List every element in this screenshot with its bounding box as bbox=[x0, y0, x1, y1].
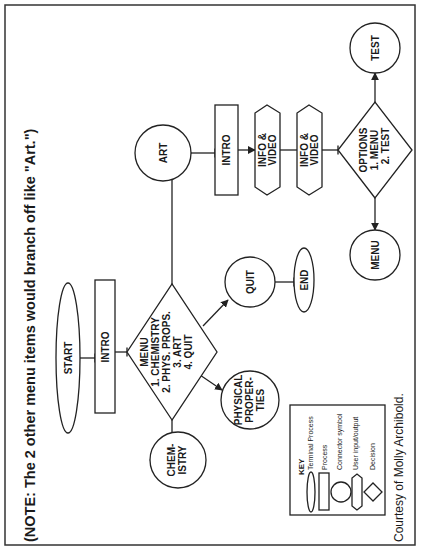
svg-text:ART: ART bbox=[158, 143, 169, 164]
svg-text:Terminal Process: Terminal Process bbox=[307, 416, 314, 470]
svg-text:Connector symbol: Connector symbol bbox=[336, 413, 344, 470]
svg-text:Decision: Decision bbox=[369, 443, 376, 470]
flowchart-diagram: (NOTE: The 2 other menu items would bran… bbox=[0, 0, 421, 558]
svg-text:TIES: TIES bbox=[255, 389, 266, 412]
menu-decision: MENU 1. CHEMISTRY 2. PHYS. PROPS. 3. ART… bbox=[127, 284, 217, 420]
legend-key: KEY Terminal Process Process Connector s… bbox=[290, 405, 385, 515]
svg-text:KEY: KEY bbox=[297, 458, 306, 475]
chemistry-connector: CHEM- ISTRY bbox=[150, 432, 206, 488]
svg-text:PROPER-: PROPER- bbox=[244, 377, 255, 423]
legend-circle-icon bbox=[331, 482, 351, 502]
quit-connector: QUIT bbox=[225, 257, 275, 307]
svg-text:Process: Process bbox=[321, 444, 328, 470]
end-terminal: END bbox=[294, 248, 314, 312]
svg-text:VIDEO: VIDEO bbox=[267, 134, 278, 165]
svg-text:CHEM-: CHEM- bbox=[166, 444, 177, 477]
svg-text:TEST: TEST bbox=[370, 35, 381, 61]
physical-properties-connector: PHYSICAL PROPER- TIES bbox=[221, 371, 279, 429]
svg-text:MENU: MENU bbox=[139, 337, 150, 366]
svg-text:INTRO: INTRO bbox=[100, 331, 111, 362]
intro-process: INTRO bbox=[95, 280, 115, 413]
info-video-io-2: INFO & VIDEO bbox=[297, 105, 322, 195]
svg-text:START: START bbox=[63, 342, 74, 375]
svg-text:INTRO: INTRO bbox=[221, 134, 232, 165]
svg-text:QUIT: QUIT bbox=[245, 270, 256, 294]
art-intro-process: INTRO bbox=[215, 105, 238, 195]
svg-text:1. CHEMISTRY: 1. CHEMISTRY bbox=[150, 317, 161, 387]
legend-rectangle-icon bbox=[319, 473, 329, 510]
svg-text:1. MENU: 1. MENU bbox=[369, 130, 380, 171]
svg-text:User input/output: User input/output bbox=[352, 417, 360, 470]
svg-text:ISTRY: ISTRY bbox=[177, 445, 188, 474]
svg-text:3. ART: 3. ART bbox=[172, 336, 183, 367]
svg-text:OPTIONS: OPTIONS bbox=[358, 127, 369, 172]
svg-text:MENU: MENU bbox=[370, 240, 381, 269]
svg-text:2. TEST: 2. TEST bbox=[380, 128, 391, 165]
test-connector: TEST bbox=[350, 23, 400, 73]
svg-text:4. QUIT: 4. QUIT bbox=[183, 334, 194, 369]
art-connector: ART bbox=[135, 125, 191, 181]
svg-text:VIDEO: VIDEO bbox=[309, 134, 320, 165]
legend-ellipse-icon bbox=[307, 472, 315, 512]
menu-return-connector: MENU bbox=[350, 230, 400, 280]
svg-text:PHYSICAL: PHYSICAL bbox=[233, 375, 244, 426]
note-text: (NOTE: The 2 other menu items would bran… bbox=[22, 128, 38, 542]
options-decision: OPTIONS 1. MENU 2. TEST bbox=[338, 102, 412, 198]
svg-text:END: END bbox=[299, 269, 310, 290]
legend-hexagon-icon bbox=[352, 474, 362, 510]
credit-text: Courtesy of Molly Archibold. bbox=[392, 393, 406, 542]
svg-text:2. PHYS. PROPS.: 2. PHYS. PROPS. bbox=[161, 311, 172, 393]
info-video-io-1: INFO & VIDEO bbox=[255, 105, 280, 195]
start-terminal: START bbox=[56, 283, 80, 433]
